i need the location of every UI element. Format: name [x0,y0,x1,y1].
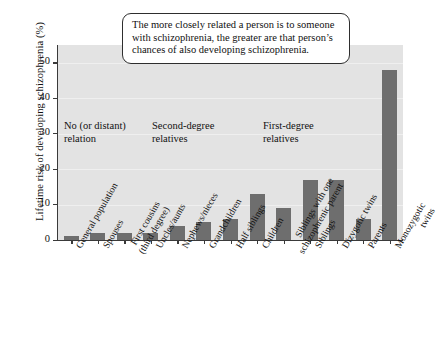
y-tick-label: 0 [30,233,50,244]
bar [382,70,397,240]
x-tick-mark [284,240,285,244]
group-annotation-first-degree: First-degree relatives [263,120,314,145]
y-tick-label: 30 [30,126,50,137]
x-tick-mark [204,240,205,244]
bar [143,233,158,240]
bar [303,180,318,240]
x-tick-mark [151,240,152,244]
bar [356,219,371,240]
bar [223,219,238,240]
x-tick-mark [257,240,258,244]
x-tick-mark [71,240,72,244]
group-annotation-second-degree: Second-degree relatives [152,120,214,145]
plot-area: 01020304050 No (or distant) relation Sec… [57,45,403,241]
group-annotation-no-relation: No (or distant) relation [64,120,126,145]
x-tick-mark [177,240,178,244]
bar [90,233,105,240]
bar [117,233,132,240]
x-tick-mark [390,240,391,244]
x-tick-mark [310,240,311,244]
bar [276,208,291,240]
bar [250,194,265,240]
x-tick-mark [363,240,364,244]
x-tick-mark [337,240,338,244]
x-tick-mark [98,240,99,244]
y-tick-label: 50 [30,55,50,66]
bar [170,226,185,240]
y-tick-label: 40 [30,91,50,102]
y-tick-label: 20 [30,162,50,173]
x-tick-mark [231,240,232,244]
y-tick-label: 10 [30,197,50,208]
x-tick-mark [124,240,125,244]
bar [196,222,211,240]
callout-box: The more closely related a person is to … [122,13,350,64]
bar [329,180,344,240]
